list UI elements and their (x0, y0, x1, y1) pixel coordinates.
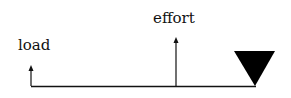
load-arrow-icon (29, 65, 34, 86)
lever-diagram: load effort (0, 0, 291, 98)
load-label: load (18, 38, 50, 53)
effort-label: effort (153, 11, 195, 26)
fulcrum-triangle-icon (234, 51, 275, 86)
effort-arrow-icon (174, 37, 179, 86)
